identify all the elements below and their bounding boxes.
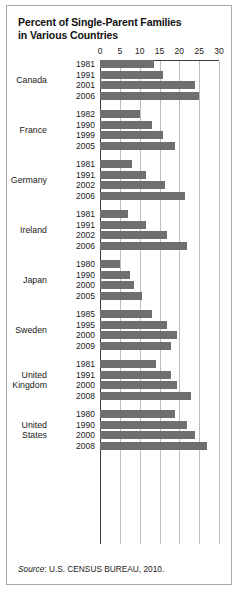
group-spacer xyxy=(7,252,233,260)
source-value: : U.S. CENSUS BUREAU, 2010. xyxy=(44,564,164,574)
year-label: 1999 xyxy=(47,130,95,140)
bar xyxy=(100,410,175,418)
bar-row: 1991 xyxy=(7,371,233,380)
group-spacer xyxy=(7,152,233,160)
bar-group-united-states: UnitedStates1980199020002008 xyxy=(7,410,233,451)
year-label: 1990 xyxy=(47,120,95,130)
bar-groups: Canada1981199120012006France198219901999… xyxy=(7,60,233,544)
year-label: 2006 xyxy=(47,91,95,101)
year-label: 2002 xyxy=(47,230,95,240)
year-label: 2001 xyxy=(47,80,95,90)
year-label: 1981 xyxy=(47,359,95,369)
bar xyxy=(100,292,142,300)
x-tick-label-5: 5 xyxy=(117,46,122,56)
year-label: 1985 xyxy=(47,309,95,319)
year-label: 1995 xyxy=(47,320,95,330)
bar xyxy=(100,271,130,279)
year-label: 2006 xyxy=(47,191,95,201)
bar-row: 1990 xyxy=(7,421,233,430)
group-spacer xyxy=(7,202,233,210)
bar xyxy=(100,92,199,100)
bar-row: 2000 xyxy=(7,381,233,390)
bar-row: 1991 xyxy=(7,71,233,80)
bar-row: 1981 xyxy=(7,60,233,69)
bar-row: 2002 xyxy=(7,181,233,190)
year-label: 1981 xyxy=(47,59,95,69)
x-tick-label-10: 10 xyxy=(135,46,144,56)
year-label: 1982 xyxy=(47,109,95,119)
source-label: Source xyxy=(18,564,44,574)
bar xyxy=(100,81,195,89)
bar-row: 2008 xyxy=(7,392,233,401)
year-label: 1981 xyxy=(47,159,95,169)
plot-area: 051015202530 Canada1981199120012006Franc… xyxy=(7,46,233,551)
chart-title: Percent of Single-Parent Families in Var… xyxy=(18,16,218,41)
source-note: Source: U.S. CENSUS BUREAU, 2010. xyxy=(18,564,164,574)
bar-row: 1981 xyxy=(7,210,233,219)
bar-row: 1981 xyxy=(7,360,233,369)
bar xyxy=(100,421,187,429)
bar xyxy=(100,60,154,68)
year-label: 2008 xyxy=(47,391,95,401)
bar xyxy=(100,171,146,179)
bar-row: 1980 xyxy=(7,410,233,419)
bar xyxy=(100,181,165,189)
chart-title-line-1: Percent of Single-Parent Families xyxy=(18,16,218,29)
x-tick-label-20: 20 xyxy=(175,46,184,56)
bar xyxy=(100,221,146,229)
year-label: 2002 xyxy=(47,180,95,190)
bar-row: 2001 xyxy=(7,81,233,90)
year-label: 1980 xyxy=(47,409,95,419)
chart-title-line-2: in Various Countries xyxy=(18,29,218,42)
group-spacer xyxy=(7,102,233,110)
bar-group-sweden: Sweden1985199520002009 xyxy=(7,310,233,351)
bar-row: 1981 xyxy=(7,160,233,169)
bar xyxy=(100,442,207,450)
bar xyxy=(100,192,185,200)
bar-row: 2006 xyxy=(7,242,233,251)
bar-row: 1995 xyxy=(7,321,233,330)
bar xyxy=(100,342,171,350)
year-label: 1991 xyxy=(47,370,95,380)
bar xyxy=(100,371,171,379)
year-label: 1991 xyxy=(47,70,95,80)
bar-group-ireland: Ireland1981199120022006 xyxy=(7,210,233,251)
bar-row: 2000 xyxy=(7,281,233,290)
bar-row: 1999 xyxy=(7,131,233,140)
bar-row: 1990 xyxy=(7,271,233,280)
x-tick-label-0: 0 xyxy=(98,46,103,56)
x-tick-label-25: 25 xyxy=(194,46,203,56)
bar xyxy=(100,392,191,400)
bar xyxy=(100,142,175,150)
bar xyxy=(100,121,152,129)
bar-row: 1991 xyxy=(7,171,233,180)
bar-row: 2002 xyxy=(7,231,233,240)
year-label: 1990 xyxy=(47,270,95,280)
bar-row: 2009 xyxy=(7,342,233,351)
x-tick-label-30: 30 xyxy=(214,46,223,56)
bar xyxy=(100,110,140,118)
bar-group-canada: Canada1981199120012006 xyxy=(7,60,233,101)
bar-row: 2006 xyxy=(7,92,233,101)
year-label: 2000 xyxy=(47,430,95,440)
bar xyxy=(100,260,120,268)
bar xyxy=(100,160,132,168)
bar-row: 2000 xyxy=(7,431,233,440)
year-label: 1981 xyxy=(47,209,95,219)
group-spacer xyxy=(7,352,233,360)
bar-row: 1982 xyxy=(7,110,233,119)
x-tick-label-15: 15 xyxy=(155,46,164,56)
bar-row: 2005 xyxy=(7,292,233,301)
year-label: 2005 xyxy=(47,291,95,301)
year-label: 1991 xyxy=(47,220,95,230)
bar-row: 1990 xyxy=(7,121,233,130)
year-label: 2000 xyxy=(47,380,95,390)
bar-row: 2000 xyxy=(7,331,233,340)
bar-group-france: France1982199019992005 xyxy=(7,110,233,151)
group-spacer xyxy=(7,402,233,410)
bar-row: 2008 xyxy=(7,442,233,451)
bar-group-japan: Japan1980199020002005 xyxy=(7,260,233,301)
bar xyxy=(100,310,152,318)
year-label: 2008 xyxy=(47,441,95,451)
year-label: 1980 xyxy=(47,259,95,269)
